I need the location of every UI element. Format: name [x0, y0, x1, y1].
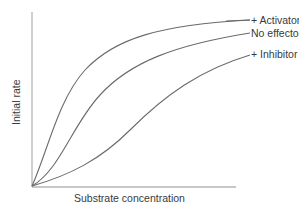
label-inhibitor: + Inhibitor: [251, 48, 298, 60]
y-axis-label: Initial rate: [10, 79, 22, 125]
label-no-effector: No effector: [251, 27, 299, 39]
curve-no-effector: [32, 33, 250, 186]
enzyme-kinetics-chart: + Activator No effector + Inhibitor Subs…: [0, 0, 299, 213]
label-activator: + Activator: [251, 14, 299, 26]
leader-activator: [226, 20, 250, 21]
curve-inhibitor: [32, 55, 250, 186]
curve-activator: [32, 20, 250, 186]
x-axis-label: Substrate concentration: [74, 192, 185, 204]
